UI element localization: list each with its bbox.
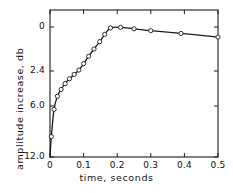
- x-tick-label: 0.1: [70, 160, 98, 170]
- y-axis-title: amplitude increase, db: [14, 48, 25, 170]
- axis-ticks: [50, 10, 218, 157]
- chart-figure: 02.46.012.0 00.10.20.30.40.5 time, secon…: [0, 0, 233, 193]
- y-tick-label: 0: [8, 21, 45, 31]
- data-series-line: [50, 27, 218, 157]
- x-tick-label: 0.2: [103, 160, 131, 170]
- x-tick-label: 0: [36, 160, 64, 170]
- data-series-markers: [49, 25, 220, 138]
- x-axis-title: time, seconds: [0, 172, 233, 183]
- x-tick-label: 0.3: [137, 160, 165, 170]
- axis-frame: [50, 10, 218, 157]
- x-tick-label: 0.5: [204, 160, 232, 170]
- x-tick-label: 0.4: [170, 160, 198, 170]
